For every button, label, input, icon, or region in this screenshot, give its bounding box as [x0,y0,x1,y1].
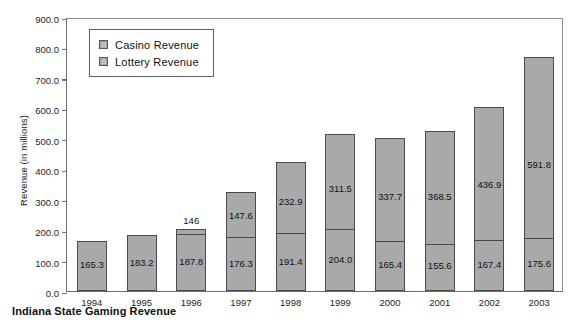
bar-value-label-lottery-2003: 175.6 [525,259,553,269]
bar-segment-lottery-2001[interactable]: 155.6 [425,244,455,291]
bar-stack: 232.9191.4 [276,162,306,291]
bar-stack: 311.5204.0 [325,134,355,291]
bar-segment-lottery-1995[interactable]: 183.2 [127,235,157,291]
bar-segment-casino-2001[interactable]: 368.5 [425,131,455,243]
y-axis-title: Revenue (in millions) [18,61,29,261]
legend-swatch-casino-icon [99,40,108,49]
y-axis-tick-800-0: 800.0 [35,44,67,55]
figure-caption: Indiana State Gaming Revenue [12,305,176,317]
bar-stack: 436.9167.4 [474,107,504,291]
bar-group-1997[interactable]: 147.6176.3 [226,19,256,291]
y-axis-tick-700-0: 700.0 [35,74,67,85]
bar-segment-casino-2000[interactable]: 337.7 [375,138,405,241]
bar-value-label-lottery-1997: 176.3 [227,259,255,269]
bar-stack: 146187.8 [176,229,206,291]
bar-segment-lottery-2000[interactable]: 165.4 [375,241,405,291]
legend-label-casino: Casino Revenue [115,39,199,51]
bar-segment-casino-1998[interactable]: 232.9 [276,162,306,233]
bar-segment-lottery-2003[interactable]: 175.6 [524,238,554,291]
legend-swatch-lottery-icon [99,57,108,66]
bar-value-label-casino-2002: 436.9 [475,180,503,190]
bar-segment-lottery-1994[interactable]: 165.3 [77,241,107,291]
y-axis-tick-600-0: 600.0 [35,105,67,116]
bar-group-2000[interactable]: 337.7165.4 [375,19,405,291]
bar-value-label-lottery-1996: 187.8 [177,257,205,267]
bar-value-label-lottery-1994: 165.3 [78,260,106,270]
bar-value-label-lottery-2001: 155.6 [426,261,454,271]
y-axis-tick-400-0: 400.0 [35,166,67,177]
bar-segment-casino-2003[interactable]: 591.8 [524,57,554,237]
bar-stack: 147.6176.3 [226,192,256,291]
y-axis-tick-100-0: 100.0 [35,257,67,268]
bar-value-label-casino-1997: 147.6 [227,211,255,221]
bar-segment-lottery-1996[interactable]: 187.8 [176,234,206,291]
bar-stack: 368.5155.6 [425,131,455,291]
bar-value-label-lottery-1999: 204.0 [326,255,354,265]
bar-stack: 183.2 [127,235,157,291]
x-axis-tick-2003: 2003 [509,291,569,308]
bar-segment-casino-1999[interactable]: 311.5 [325,134,355,229]
bar-group-2003[interactable]: 591.8175.6 [524,19,554,291]
bar-value-label-lottery-1995: 183.2 [128,258,156,268]
bar-segment-lottery-1999[interactable]: 204.0 [325,229,355,291]
chart-figure: Revenue (in millions) 0.0100.0200.0300.0… [0,0,588,325]
bar-value-label-lottery-2000: 165.4 [376,260,404,270]
bar-group-1998[interactable]: 232.9191.4 [276,19,306,291]
bar-stack: 591.8175.6 [524,57,554,291]
bar-group-2001[interactable]: 368.5155.6 [425,19,455,291]
legend-label-lottery: Lottery Revenue [115,56,199,68]
y-axis-tick-500-0: 500.0 [35,135,67,146]
bar-segment-casino-1997[interactable]: 147.6 [226,192,256,237]
y-axis-tick-200-0: 200.0 [35,227,67,238]
y-axis-tick-900-0: 900.0 [35,14,67,25]
bar-value-label-casino-2001: 368.5 [426,192,454,202]
bar-value-label-casino-1998: 232.9 [277,197,305,207]
bar-value-label-lottery-1998: 191.4 [277,257,305,267]
bar-value-label-lottery-2002: 167.4 [475,260,503,270]
bar-segment-casino-2002[interactable]: 436.9 [474,107,504,240]
bar-value-label-casino-1996: 146 [171,216,211,226]
y-axis-tick-300-0: 300.0 [35,196,67,207]
plot-area: 0.0100.0200.0300.0400.0500.0600.0700.080… [66,18,563,292]
bar-group-2002[interactable]: 436.9167.4 [474,19,504,291]
bar-value-label-casino-2003: 591.8 [525,160,553,170]
bar-group-1999[interactable]: 311.5204.0 [325,19,355,291]
bar-segment-lottery-2002[interactable]: 167.4 [474,240,504,291]
bar-value-label-casino-2000: 337.7 [376,192,404,202]
bar-stack: 165.3 [77,241,107,291]
legend-item-lottery: Lottery Revenue [99,53,199,70]
bar-stack: 337.7165.4 [375,138,405,291]
bar-segment-lottery-1997[interactable]: 176.3 [226,237,256,291]
chart-legend: Casino Revenue Lottery Revenue [89,29,214,77]
bar-value-label-casino-1999: 311.5 [326,184,354,194]
legend-item-casino: Casino Revenue [99,36,199,53]
bar-segment-lottery-1998[interactable]: 191.4 [276,233,306,291]
